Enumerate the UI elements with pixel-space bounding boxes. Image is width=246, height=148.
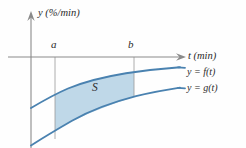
curve-label-g: y = g(t) bbox=[187, 83, 218, 93]
marker-label-b: b bbox=[128, 39, 134, 50]
y-axis-label: y (%/min) bbox=[38, 8, 80, 19]
marker-label-a: a bbox=[51, 39, 57, 50]
figure-canvas: y (%/min) t (min) a b S y = f(t) y = g(t… bbox=[0, 0, 246, 148]
t-axis-label: t (min) bbox=[188, 51, 216, 62]
leader-line-g bbox=[178, 88, 185, 89]
region-label-s: S bbox=[92, 82, 98, 94]
curve-label-f: y = f(t) bbox=[187, 67, 215, 77]
